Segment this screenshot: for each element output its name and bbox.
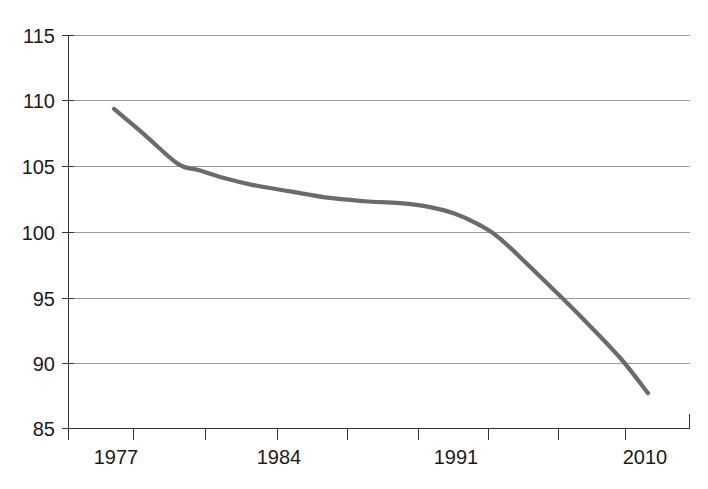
y-tick-label-95: 95 — [33, 288, 55, 310]
x-tick-label-1977: 1977 — [94, 446, 139, 468]
x-tick-label-1991: 1991 — [434, 446, 479, 468]
y-tick-label-100: 100 — [22, 222, 55, 244]
y-tick-label-105: 105 — [22, 156, 55, 178]
line-chart: 115 110 105 100 95 90 85 1977 1984 1991 … — [0, 0, 708, 489]
gridlines — [68, 36, 690, 364]
data-line-series-index — [114, 109, 648, 393]
y-tick-label-85: 85 — [33, 418, 55, 440]
x-tick-label-1984: 1984 — [257, 446, 302, 468]
y-tick-label-90: 90 — [33, 353, 55, 375]
y-tick-labels: 115 110 105 100 95 90 85 — [22, 25, 55, 440]
x-tick-label-2010: 2010 — [623, 446, 668, 468]
y-tick-label-115: 115 — [23, 25, 55, 47]
x-tick-labels: 1977 1984 1991 2010 — [94, 446, 668, 468]
y-tick-label-110: 110 — [23, 90, 55, 112]
chart-canvas: 115 110 105 100 95 90 85 1977 1984 1991 … — [0, 0, 708, 489]
x-tick-marks — [69, 428, 626, 440]
